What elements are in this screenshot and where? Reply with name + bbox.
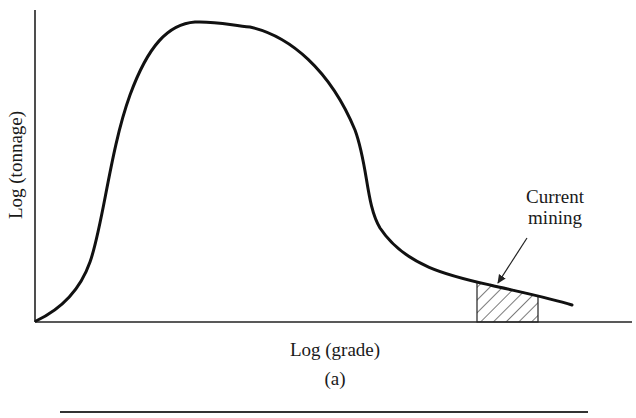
figure-caption: (a) <box>324 369 345 388</box>
grade-tonnage-curve <box>36 22 572 321</box>
x-axis-label: Log (grade) <box>290 340 380 359</box>
y-axis-label: Log (tonnage) <box>6 111 25 219</box>
current-mining-annotation: Current mining <box>526 186 584 228</box>
annotation-line-1: Current <box>526 186 584 207</box>
current-mining-arrow <box>498 238 527 283</box>
grade-tonnage-figure: Log (tonnage) Log (grade) (a) Current mi… <box>0 0 636 418</box>
annotation-line-2: mining <box>526 207 584 228</box>
